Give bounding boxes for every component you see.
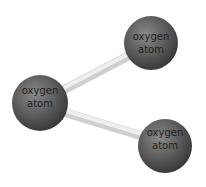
atom-bottom-label-line1: oxygen: [147, 127, 183, 138]
atom-bottom-label-line2: atom: [152, 140, 178, 151]
atom-top-label-line2: atom: [138, 44, 164, 55]
atom-bottom: oxygen atom: [138, 119, 192, 173]
atom-left-label-line2: atom: [27, 98, 53, 109]
atom-top: oxygen atom: [124, 16, 178, 70]
atom-left: oxygen atom: [12, 75, 68, 131]
atom-top-label-line1: oxygen: [133, 31, 169, 42]
molecule-diagram: oxygen atom oxygen atom oxygen atom: [0, 0, 206, 187]
atom-left-label-line1: oxygen: [22, 85, 58, 96]
